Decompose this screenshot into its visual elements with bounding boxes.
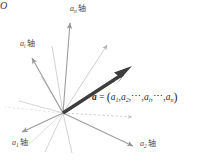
equation-term-1: a: [111, 92, 116, 102]
equation-sub-1: 1: [116, 97, 119, 103]
minor-ray-upper-right: [63, 45, 107, 113]
equation-lhs: a: [92, 92, 97, 102]
axis-label-a2-sub: 2: [144, 143, 147, 149]
axes-svg: [0, 0, 214, 160]
a2-axis-line: [63, 113, 133, 146]
axis-label-a2-unit: 轴: [148, 139, 156, 148]
axis-label-ai-sub: i: [24, 43, 26, 49]
axis-label-a2: a2轴: [140, 140, 156, 148]
equation-ellipsis-1: ⋯: [131, 91, 142, 101]
axis-label-a1-sub: 1: [16, 142, 19, 148]
equation-equals: =: [99, 92, 104, 102]
axis-label-a1-unit: 轴: [20, 138, 28, 147]
equation-close-paren: ): [173, 90, 177, 104]
vector-a-arrowhead: [114, 66, 132, 84]
minor-ray-lower-left-2: [27, 113, 63, 146]
vector-axes-figure: an轴 ai轴 a1轴 a2轴 O a = (a1,a2,⋯,ai,⋯,an): [0, 0, 214, 160]
minor-ray-left-dotted: [5, 107, 63, 113]
an-axis-line: [63, 23, 70, 113]
equation-open-paren: (: [107, 90, 111, 104]
vector-equation: a = (a1,a2,⋯,ai,⋯,an): [92, 90, 177, 103]
minor-ray-down-left: [45, 113, 63, 152]
axis-label-an-unit: 轴: [78, 4, 86, 13]
minor-ray-left-flat: [19, 101, 63, 113]
minor-ray-right-dotted: [63, 113, 132, 117]
equation-sub-2: 2: [126, 97, 129, 103]
a1-axis-line: [22, 113, 63, 132]
axis-label-ai-unit: 轴: [27, 39, 35, 48]
axis-label-an-sub: n: [74, 8, 77, 14]
axis-label-an: an轴: [70, 5, 86, 13]
minor-ray-down: [63, 113, 72, 153]
axis-label-a1: a1轴: [12, 139, 28, 147]
axis-label-ai: ai轴: [20, 40, 35, 48]
named-axes-group: [22, 23, 133, 146]
equation-ellipsis-2: ⋯: [153, 91, 164, 101]
